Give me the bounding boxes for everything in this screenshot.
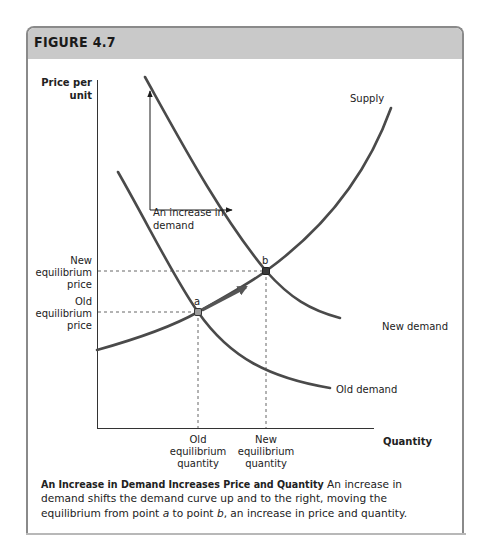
supply-demand-chart: a b Price per unit Quantity Supply New d… — [0, 0, 481, 537]
svg-text:quantity: quantity — [245, 458, 287, 469]
svg-text:equilibrium: equilibrium — [36, 308, 93, 319]
old-price-label: Old equilibrium price — [36, 296, 93, 331]
svg-text:New: New — [255, 434, 277, 445]
point-a-label: a — [194, 296, 200, 307]
figure-caption: An Increase in Demand Increases Price an… — [41, 477, 441, 520]
point-b-label: b — [262, 255, 268, 266]
caption-text-3: , an increase in price and quantity. — [224, 507, 407, 519]
svg-text:price: price — [67, 279, 92, 290]
new-quantity-label: New equilibrium quantity — [238, 434, 295, 469]
svg-text:Old: Old — [75, 296, 92, 307]
new-price-label: New equilibrium price — [36, 255, 93, 290]
increase-label-line1: An increase in — [153, 207, 224, 218]
svg-text:New: New — [70, 255, 92, 266]
svg-text:Old: Old — [190, 434, 207, 445]
supply-label: Supply — [350, 93, 384, 104]
caption-text-2: to point — [169, 507, 217, 519]
svg-text:equilibrium: equilibrium — [170, 446, 227, 457]
y-axis-title-line2: unit — [70, 90, 93, 101]
y-axis-title-line1: Price per — [41, 77, 92, 88]
supply-curve — [97, 108, 391, 350]
x-axis-title: Quantity — [383, 436, 432, 447]
caption-title: An Increase in Demand Increases Price an… — [41, 478, 324, 490]
point-a-marker — [195, 309, 202, 316]
new-demand-label: New demand — [382, 321, 448, 332]
old-quantity-label: Old equilibrium quantity — [170, 434, 227, 469]
movement-arrow — [202, 287, 246, 310]
svg-text:price: price — [67, 320, 92, 331]
old-demand-label: Old demand — [336, 384, 397, 395]
new-demand-curve — [145, 77, 340, 318]
increase-label-line2: demand — [153, 220, 194, 231]
caption-point-b: b — [217, 507, 224, 519]
svg-text:equilibrium: equilibrium — [238, 446, 295, 457]
point-b-marker — [263, 268, 270, 275]
svg-text:equilibrium: equilibrium — [36, 267, 93, 278]
svg-text:quantity: quantity — [177, 458, 219, 469]
equilibrium-guides — [98, 271, 266, 428]
